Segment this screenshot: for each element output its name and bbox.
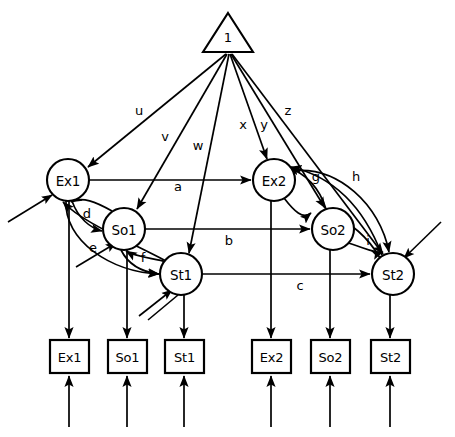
edge-label-i: i <box>366 233 370 248</box>
observed-node-Ex1[interactable]: Ex1 <box>50 340 89 373</box>
edge-label-y: y <box>260 117 268 132</box>
path-reciprocal-St1-to-So1[interactable] <box>126 251 167 262</box>
edge-label-z: z <box>285 103 292 118</box>
observed-node-So1-label: So1 <box>116 350 140 365</box>
observed-node-Ex1-label: Ex1 <box>58 350 82 365</box>
edge-label-x: x <box>239 117 247 132</box>
latent-node-So2-label: So2 <box>321 222 346 238</box>
residual-arrows <box>69 376 390 427</box>
observed-node-So2[interactable]: So2 <box>311 340 350 373</box>
latent-node-St2[interactable]: St2 <box>372 253 414 295</box>
edge-label-g: g <box>312 169 320 184</box>
latent-node-Ex2-label: Ex2 <box>262 173 287 189</box>
observed-node-Ex2-label: Ex2 <box>260 350 284 365</box>
path-x-constant-to-Ex2[interactable] <box>230 54 267 159</box>
path-diagram: 1 <box>0 0 455 437</box>
edge-label-c: c <box>296 278 303 293</box>
observed-node-St1-label: St1 <box>174 350 195 365</box>
edge-label-v: v <box>161 129 169 144</box>
edge-label-b: b <box>225 233 233 248</box>
observed-node-St2[interactable]: St2 <box>371 340 410 373</box>
observed-node-So1[interactable]: So1 <box>108 340 147 373</box>
edge-label-h: h <box>352 169 360 184</box>
edge-label-w: w <box>193 138 204 153</box>
path-u-constant-to-Ex1[interactable] <box>88 54 226 167</box>
disturbance-arrow-into-Ex1[interactable] <box>8 195 52 222</box>
path-g-Ex2-to-So2[interactable] <box>284 198 311 215</box>
path-reciprocal-So1-to-Ex1[interactable] <box>71 200 112 211</box>
edge-label-e: e <box>89 240 97 255</box>
disturbance-arrow-into-St2[interactable] <box>404 222 441 258</box>
constant-node-triangle[interactable]: 1 <box>203 13 253 52</box>
latent-node-St1[interactable]: St1 <box>160 253 202 295</box>
diagram-canvas: 1 <box>0 0 455 437</box>
observed-node-So2-label: So2 <box>319 350 343 365</box>
edge-label-d: d <box>83 206 91 221</box>
latent-node-So2[interactable]: So2 <box>312 208 354 250</box>
observed-node-St1[interactable]: St1 <box>165 340 204 373</box>
observed-node-Ex2[interactable]: Ex2 <box>252 340 291 373</box>
path-coefficient-labels: u v w x y z a b c d e f g h i <box>83 103 370 293</box>
auxiliary-stub-line-segment <box>148 295 178 320</box>
auxiliary-stub-line <box>148 295 178 320</box>
latent-node-Ex2[interactable]: Ex2 <box>253 159 295 201</box>
disturbance-arrow-into-St1[interactable] <box>139 290 172 316</box>
path-z-constant-to-St2[interactable] <box>232 54 383 254</box>
latent-node-St2-label: St2 <box>382 267 404 283</box>
latent-node-St1-label: St1 <box>170 267 192 283</box>
disturbance-arrows <box>8 195 441 316</box>
observed-node-St2-label: St2 <box>380 350 401 365</box>
latent-node-So1[interactable]: So1 <box>103 208 145 250</box>
edge-label-a: a <box>174 179 182 194</box>
edge-label-u: u <box>135 103 143 118</box>
edge-label-f: f <box>141 250 146 265</box>
latent-node-Ex1[interactable]: Ex1 <box>47 159 89 201</box>
latent-node-Ex1-label: Ex1 <box>56 173 81 189</box>
constant-node-label: 1 <box>224 30 232 45</box>
latent-node-So1-label: So1 <box>112 222 137 238</box>
